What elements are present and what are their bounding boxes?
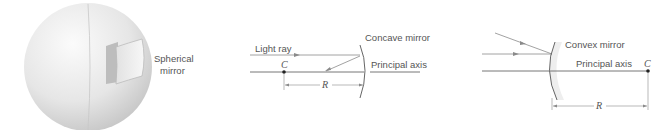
concave-mirror-label: Concave mirror bbox=[365, 32, 430, 43]
convex-mirror-label: Convex mirror bbox=[565, 39, 625, 50]
r-arrow-right-icon bbox=[359, 84, 363, 87]
convex-diagram: C R Convex mirror Principal axis bbox=[440, 0, 660, 130]
center-point bbox=[282, 70, 286, 74]
sphere-label-line1: Spherical bbox=[154, 53, 194, 64]
ray-arrow-icon bbox=[294, 53, 300, 57]
reflected-arrow-icon bbox=[325, 67, 331, 71]
sphere-label-line2: mirror bbox=[160, 65, 185, 76]
reflected-ray bbox=[326, 56, 360, 71]
horizontal-ray-arrow-icon bbox=[513, 52, 519, 56]
concave-axis-label: Principal axis bbox=[371, 59, 427, 70]
concave-center-label: C bbox=[281, 59, 288, 70]
concave-mirror-curve bbox=[360, 45, 365, 98]
sphere-illustration: Spherical mirror bbox=[0, 0, 220, 130]
light-ray-label: Light ray bbox=[255, 43, 292, 54]
r-arrow-left-icon bbox=[285, 84, 289, 87]
concave-radius-label: R bbox=[321, 79, 328, 90]
convex-r-arrow-left-icon bbox=[553, 105, 557, 108]
convex-radius-label: R bbox=[595, 100, 602, 111]
convex-r-arrow-right-icon bbox=[643, 105, 647, 108]
convex-center-point bbox=[646, 69, 650, 73]
convex-axis-label: Principal axis bbox=[576, 58, 632, 69]
convex-center-label: C bbox=[644, 58, 651, 69]
convex-panel: C R Convex mirror Principal axis bbox=[440, 0, 660, 130]
concave-diagram: C R Light ray Concave mirror Principal a… bbox=[220, 0, 440, 130]
concave-panel: C R Light ray Concave mirror Principal a… bbox=[220, 0, 440, 130]
sphere-panel: Spherical mirror bbox=[0, 0, 220, 130]
